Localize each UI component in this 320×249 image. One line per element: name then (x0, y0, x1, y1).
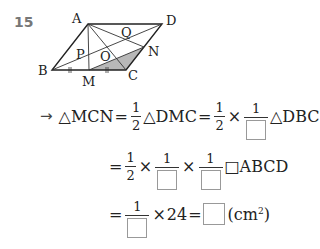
answer-blank-4[interactable] (127, 218, 147, 238)
denominator: 2 (215, 117, 223, 132)
equals: = (115, 107, 128, 126)
answer-blank-2[interactable] (157, 170, 177, 190)
equals: = (188, 205, 201, 224)
solution-line-1: → △MCN = 12 △DMC = 12 × 1 △DBC (40, 96, 320, 136)
times: × (152, 205, 165, 224)
label-o: O (100, 49, 111, 64)
label-d: D (166, 13, 176, 28)
solution-line-3: = 1 × 24 = (cm2) (108, 194, 270, 234)
label-c: C (128, 68, 138, 83)
term-mcn: △MCN (59, 107, 114, 126)
numerator: 1 (214, 101, 224, 116)
solution-line-2: = 12 × 1 × 1 □ABCD (108, 146, 288, 186)
parallelogram-figure: A D B C M N P Q O (0, 0, 320, 100)
label-q: Q (121, 25, 132, 40)
fraction-half: 12 (125, 151, 135, 182)
term-dmc: △DMC (143, 107, 197, 126)
label-b: B (38, 63, 48, 78)
equals: = (109, 157, 122, 176)
fraction-blank: 1 (155, 152, 179, 192)
answer-blank-5[interactable] (203, 203, 225, 225)
arrow-icon: → (40, 107, 53, 125)
fraction-half: 12 (214, 101, 224, 132)
fraction-blank: 1 (244, 102, 268, 142)
times: × (139, 157, 152, 176)
equals: = (198, 107, 211, 126)
denominator: 2 (132, 117, 140, 132)
numerator: 1 (162, 152, 172, 167)
unit: (cm2) (228, 205, 270, 224)
label-p: P (76, 47, 85, 62)
equals: = (109, 205, 122, 224)
times: × (182, 157, 195, 176)
term-abcd: □ABCD (225, 157, 289, 176)
times: × (228, 107, 241, 126)
numerator: 1 (131, 101, 141, 116)
answer-blank-3[interactable] (201, 170, 221, 190)
numerator: 1 (125, 151, 135, 166)
unit-open: (cm (228, 205, 258, 224)
fraction-blank: 1 (125, 200, 149, 240)
value-24: 24 (167, 205, 187, 224)
label-m: M (82, 74, 95, 89)
numerator: 1 (251, 102, 261, 117)
numerator: 1 (132, 200, 142, 215)
answer-blank-1[interactable] (246, 120, 266, 140)
numerator: 1 (205, 152, 215, 167)
unit-close: ) (264, 205, 270, 224)
label-a: A (71, 11, 82, 26)
term-dbc: △DBC (270, 107, 319, 126)
segment-am (88, 24, 89, 70)
fraction-blank: 1 (199, 152, 223, 192)
label-n: N (148, 44, 159, 59)
fraction-half: 12 (131, 101, 141, 132)
denominator: 2 (126, 167, 134, 182)
